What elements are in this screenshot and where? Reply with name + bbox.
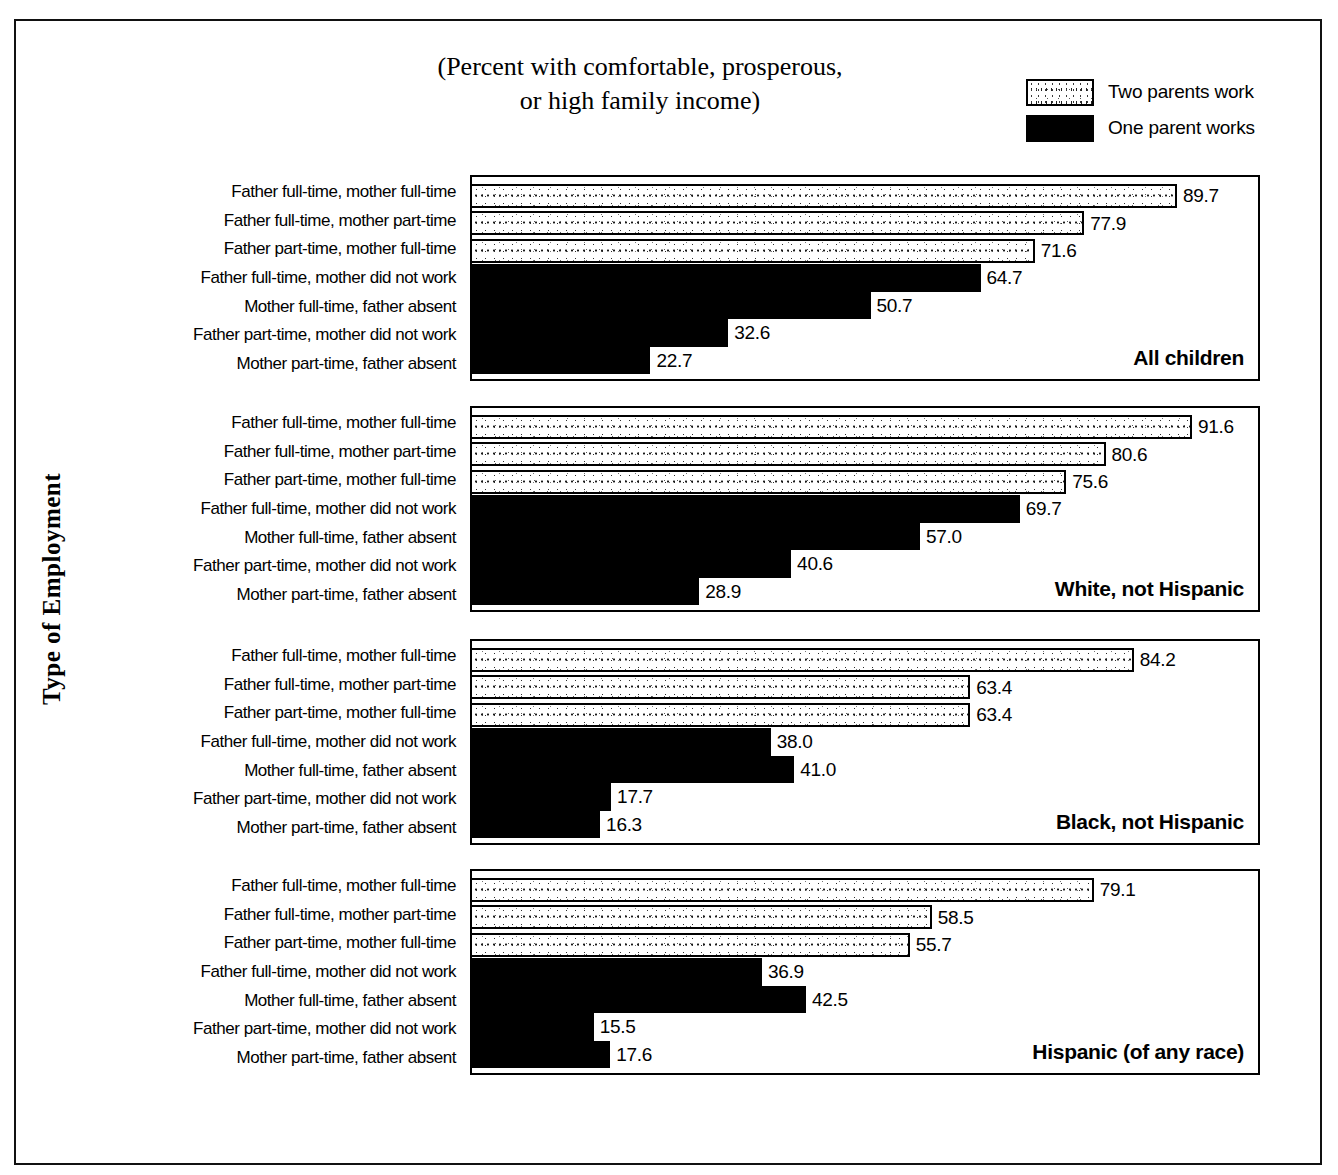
chart-panel-hispanic: Father full-time, mother full-time Fathe…	[175, 869, 1260, 1075]
bar-row: 58.5	[472, 903, 1258, 930]
bar-one-parent	[472, 523, 920, 550]
bar-value-label: 71.6	[1041, 241, 1077, 260]
chart-legend: Two parents work One parent works	[1026, 74, 1306, 146]
bar-one-parent	[472, 1041, 610, 1068]
bar-row: 64.7	[472, 264, 1258, 291]
bar-value-label: 58.5	[938, 908, 974, 927]
bar-two-parents	[472, 415, 1192, 439]
bar-row: 36.9	[472, 958, 1258, 985]
category-label-group: Father full-time, mother full-time Fathe…	[175, 406, 463, 612]
plot-area: 84.263.463.438.041.017.716.3 Black, not …	[470, 639, 1260, 845]
category-label: Mother part-time, father absent	[175, 349, 463, 378]
bar-two-parents	[472, 933, 910, 957]
bar-row: 17.7	[472, 783, 1258, 810]
bar-one-parent	[472, 292, 871, 319]
bar-value-label: 40.6	[797, 554, 833, 573]
bar-value-label: 28.9	[705, 582, 741, 601]
legend-label-one-parent: One parent works	[1108, 117, 1255, 139]
bar-row: 41.0	[472, 756, 1258, 783]
bar-row: 38.0	[472, 728, 1258, 755]
bar-row: 50.7	[472, 292, 1258, 319]
panel-caption: All children	[1133, 346, 1244, 370]
plot-area: 91.680.675.669.757.040.628.9 White, not …	[470, 406, 1260, 612]
category-label: Mother full-time, father absent	[175, 292, 463, 321]
category-label: Father full-time, mother part-time	[175, 671, 463, 700]
bar-value-label: 22.7	[656, 351, 692, 370]
bar-value-label: 77.9	[1090, 214, 1126, 233]
legend-item-one-parent: One parent works	[1026, 110, 1306, 146]
bar-value-label: 55.7	[916, 935, 952, 954]
y-axis-title: Type of Employment	[38, 419, 66, 759]
category-label: Father full-time, mother part-time	[175, 901, 463, 930]
bar-two-parents	[472, 239, 1035, 263]
category-label: Father part-time, mother did not work	[175, 785, 463, 814]
category-label: Father part-time, mother full-time	[175, 466, 463, 495]
bar-two-parents	[472, 211, 1084, 235]
category-label: Mother part-time, father absent	[175, 813, 463, 842]
bar-value-label: 64.7	[987, 268, 1023, 287]
bar-row: 42.5	[472, 986, 1258, 1013]
category-label: Mother full-time, father absent	[175, 756, 463, 785]
bar-one-parent	[472, 958, 762, 985]
bar-two-parents	[472, 675, 970, 699]
category-label: Father part-time, mother full-time	[175, 699, 463, 728]
plot-area: 79.158.555.736.942.515.517.6 Hispanic (o…	[470, 869, 1260, 1075]
bar-one-parent	[472, 347, 650, 374]
bar-value-label: 84.2	[1140, 650, 1176, 669]
bar-value-label: 17.7	[617, 787, 653, 806]
bar-two-parents	[472, 470, 1066, 494]
category-label: Mother part-time, father absent	[175, 580, 463, 609]
category-label: Father full-time, mother did not work	[175, 264, 463, 293]
bar-value-label: 50.7	[877, 296, 913, 315]
category-label: Father full-time, mother full-time	[175, 409, 463, 438]
panel-caption: Black, not Hispanic	[1056, 810, 1244, 834]
category-label: Father part-time, mother full-time	[175, 929, 463, 958]
bar-value-label: 36.9	[768, 962, 804, 981]
bar-row: 32.6	[472, 319, 1258, 346]
panel-caption: Hispanic (of any race)	[1032, 1040, 1244, 1064]
category-label: Father full-time, mother full-time	[175, 178, 463, 207]
category-label: Father part-time, mother did not work	[175, 1015, 463, 1044]
category-label: Father part-time, mother did not work	[175, 552, 463, 581]
bar-row: 91.6	[472, 413, 1258, 440]
category-label: Mother part-time, father absent	[175, 1043, 463, 1072]
category-label: Father full-time, mother did not work	[175, 958, 463, 987]
bar-value-label: 79.1	[1100, 880, 1136, 899]
category-label: Father full-time, mother part-time	[175, 438, 463, 467]
bar-value-label: 80.6	[1112, 445, 1148, 464]
category-label-group: Father full-time, mother full-time Fathe…	[175, 175, 463, 381]
chart-panel-black-not-hispanic: Father full-time, mother full-time Fathe…	[175, 639, 1260, 845]
legend-swatch-two-parents-icon	[1026, 79, 1094, 106]
bar-one-parent	[472, 811, 600, 838]
legend-swatch-one-parent-icon	[1026, 115, 1094, 142]
bar-value-label: 41.0	[800, 760, 836, 779]
category-label: Father part-time, mother full-time	[175, 235, 463, 264]
category-label: Mother full-time, father absent	[175, 986, 463, 1015]
bar-row: 77.9	[472, 209, 1258, 236]
bar-one-parent	[472, 264, 981, 291]
bar-one-parent	[472, 783, 611, 810]
bar-value-label: 32.6	[734, 323, 770, 342]
bar-value-label: 89.7	[1183, 186, 1219, 205]
category-label: Father part-time, mother did not work	[175, 321, 463, 350]
category-label: Father full-time, mother did not work	[175, 495, 463, 524]
bar-one-parent	[472, 756, 794, 783]
bar-value-label: 42.5	[812, 990, 848, 1009]
bar-row: 79.1	[472, 876, 1258, 903]
category-label: Father full-time, mother full-time	[175, 872, 463, 901]
bar-row: 63.4	[472, 673, 1258, 700]
bar-one-parent	[472, 728, 771, 755]
category-label: Father full-time, mother part-time	[175, 207, 463, 236]
bar-one-parent	[472, 578, 699, 605]
bar-two-parents	[472, 878, 1094, 902]
category-label: Father full-time, mother did not work	[175, 728, 463, 757]
bar-one-parent	[472, 550, 791, 577]
bar-one-parent	[472, 319, 728, 346]
category-label-group: Father full-time, mother full-time Fathe…	[175, 639, 463, 845]
bar-row: 75.6	[472, 468, 1258, 495]
bar-value-label: 75.6	[1072, 472, 1108, 491]
bar-two-parents	[472, 442, 1106, 466]
bar-value-label: 38.0	[777, 732, 813, 751]
bar-row: 15.5	[472, 1013, 1258, 1040]
bar-one-parent	[472, 1013, 594, 1040]
